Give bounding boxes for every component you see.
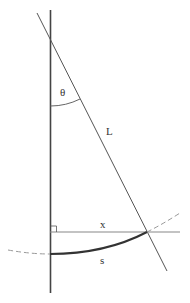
x-label: x — [100, 218, 106, 230]
arc-length — [50, 232, 147, 254]
right-angle-marker — [51, 226, 57, 232]
s-label: s — [100, 254, 104, 266]
circle-dashed-right — [147, 213, 180, 232]
pendulum-diagram: θ L x s — [0, 0, 190, 303]
circle-dashed-left — [8, 250, 50, 254]
length-label: L — [106, 125, 113, 137]
theta-arc — [51, 99, 81, 106]
theta-label: θ — [60, 86, 65, 98]
